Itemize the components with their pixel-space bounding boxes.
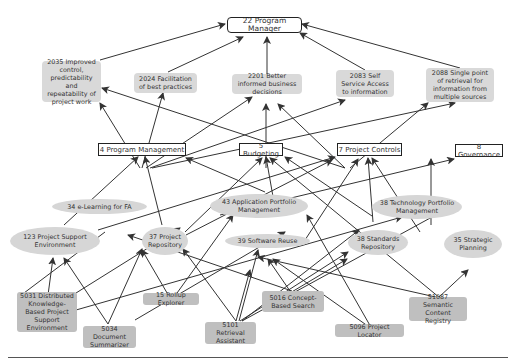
node-2088-single-point[interactable]: 2088 Single point of retrieval for infor… (426, 68, 494, 102)
node-5031-distributed-kb[interactable]: 5031 Distributed Knowledge-Based Project… (17, 292, 77, 332)
node-43-application-portfolio[interactable]: 43 Application Portfolio Management (210, 194, 308, 218)
node-22-program-manager[interactable]: 22 Program Manager (227, 17, 302, 33)
node-38-standards-repository[interactable]: 38 Standards Repository (348, 230, 408, 255)
node-5034-document-summarizer[interactable]: 5034 Document Summarizer (83, 326, 136, 348)
node-123-project-support[interactable]: 123 Project Support Environment (10, 227, 100, 255)
node-7-project-controls[interactable]: 7 Project Controls (337, 143, 402, 156)
footer-divider (8, 357, 508, 358)
node-34-elearning[interactable]: 34 e-Learning for FA (52, 199, 147, 214)
node-2024-best-practices[interactable]: 2024 Facilitation of best practices (134, 73, 197, 93)
node-39-software-reuse[interactable]: 39 Software Reuse (225, 234, 310, 248)
node-5016-concept-search[interactable]: 5016 Concept-Based Search (262, 291, 324, 312)
node-2035-improved-control[interactable]: 2035 Improved control, predictability an… (42, 61, 101, 102)
node-4-program-management[interactable]: 4 Program Management (98, 143, 186, 156)
node-15-rollup-explorer[interactable]: 15 Rollup Explorer (143, 293, 199, 305)
node-2201-business-decisions[interactable]: 2201 Better informed business decisions (232, 74, 302, 94)
node-5101-retrieval-assistant[interactable]: 5101 Retrieval Assistant (205, 322, 256, 344)
node-5-budgeting[interactable]: 5 Budgeting (239, 143, 283, 156)
node-35-strategic-planning[interactable]: 35 Strategic Planning (444, 230, 502, 258)
node-37-project-repository[interactable]: 37 Project Repository (142, 227, 188, 255)
edges (48, 24, 468, 329)
node-2083-self-service[interactable]: 2083 Self Service Access to information (336, 70, 394, 97)
node-51087-semantic-registry[interactable]: 51087 Semantic Content Registry (409, 297, 467, 321)
node-8-governance[interactable]: 8 Governance (455, 144, 503, 157)
node-38-technology-portfolio[interactable]: 38 Technology Portfolio Management (372, 195, 462, 219)
node-5096-project-locator[interactable]: 5096 Project Locator (335, 324, 404, 337)
